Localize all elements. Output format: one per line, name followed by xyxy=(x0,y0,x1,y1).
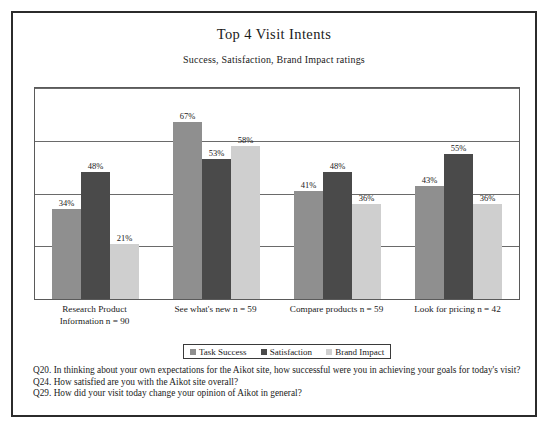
category-label: See what's new n = 59 xyxy=(145,304,286,316)
legend-item[interactable]: Task Success xyxy=(190,347,247,357)
legend-swatch-icon xyxy=(190,349,196,355)
bar[interactable] xyxy=(294,191,323,299)
chart-figure: Top 4 Visit Intents Success, Satisfactio… xyxy=(11,11,537,417)
bar-group xyxy=(415,88,502,299)
category-label: Research ProductInformation n = 90 xyxy=(24,304,165,327)
bar[interactable] xyxy=(352,204,381,299)
footnotes: Q20. In thinking about your own expectat… xyxy=(33,365,523,400)
bar[interactable] xyxy=(231,146,260,299)
legend-item[interactable]: Brand Impact xyxy=(326,347,384,357)
category-label-line: Look for pricing n = 42 xyxy=(387,304,528,316)
category-label: Compare products n = 59 xyxy=(266,304,407,316)
bar[interactable] xyxy=(415,186,444,299)
category-label-line: Research Product xyxy=(24,304,165,316)
category-axis: Research ProductInformation n = 90See wh… xyxy=(34,304,520,338)
legend-swatch-icon xyxy=(261,349,267,355)
bar-group xyxy=(52,88,139,299)
plot-area: 34%48%21%67%53%58%41%48%36%43%55%36% xyxy=(34,87,520,300)
chart-title: Top 4 Visit Intents xyxy=(13,26,535,43)
legend-label: Task Success xyxy=(199,347,247,357)
footnote-line: Q24. How satisfied are you with the Aiko… xyxy=(33,377,523,389)
legend-swatch-icon xyxy=(326,349,332,355)
category-label-line: See what's new n = 59 xyxy=(145,304,286,316)
bar-group xyxy=(173,88,260,299)
legend-item[interactable]: Satisfaction xyxy=(261,347,313,357)
legend-label: Satisfaction xyxy=(270,347,313,357)
bar[interactable] xyxy=(110,244,139,299)
bar[interactable] xyxy=(473,204,502,299)
category-label-line: Information n = 90 xyxy=(24,316,165,328)
bar[interactable] xyxy=(202,159,231,299)
footnote-line: Q29. How did your visit today change you… xyxy=(33,388,523,400)
category-label-line: Compare products n = 59 xyxy=(266,304,407,316)
bars-layer: 34%48%21%67%53%58%41%48%36%43%55%36% xyxy=(35,88,519,299)
category-label: Look for pricing n = 42 xyxy=(387,304,528,316)
chart-subtitle: Success, Satisfaction, Brand Impact rati… xyxy=(13,54,535,65)
bar[interactable] xyxy=(81,172,110,299)
footnote-line: Q20. In thinking about your own expectat… xyxy=(33,365,523,377)
bar[interactable] xyxy=(323,172,352,299)
bar[interactable] xyxy=(444,154,473,299)
chart-legend: Task SuccessSatisfactionBrand Impact xyxy=(183,344,391,359)
legend-label: Brand Impact xyxy=(335,347,384,357)
bar-group xyxy=(294,88,381,299)
bar[interactable] xyxy=(173,122,202,299)
bar[interactable] xyxy=(52,209,81,299)
